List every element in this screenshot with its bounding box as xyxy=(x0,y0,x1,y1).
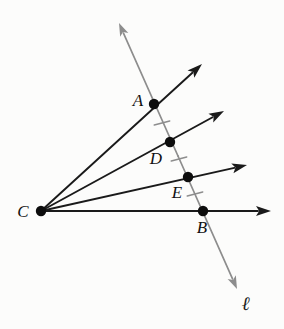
point-label-D: D xyxy=(150,150,162,167)
ray-CD-arrowhead xyxy=(208,111,224,123)
geometry-figure: CADEBℓ xyxy=(0,0,284,329)
point-label-A: A xyxy=(133,92,143,109)
point-label-C: C xyxy=(17,203,28,220)
point-label-E: E xyxy=(172,184,182,201)
ray-CD-shaft xyxy=(41,117,213,211)
ray-CE-shaft xyxy=(41,168,234,211)
point-B xyxy=(198,206,208,216)
transversal-line-l xyxy=(119,23,237,289)
point-E xyxy=(183,172,193,182)
point-C xyxy=(36,206,46,216)
rays-group xyxy=(41,64,271,216)
line-label-l: ℓ xyxy=(242,294,250,313)
point-label-B: B xyxy=(197,219,207,236)
point-A xyxy=(149,99,159,109)
point-D xyxy=(165,137,175,147)
geometry-canvas xyxy=(0,0,284,329)
